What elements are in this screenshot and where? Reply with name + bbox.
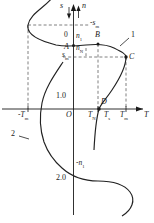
tick-neg-T-m: -Tm	[18, 111, 28, 121]
curve-label-2: 2	[11, 130, 15, 138]
axis-label-s: s	[60, 2, 63, 10]
curve-2-path	[40, 62, 133, 216]
point-C-marker	[124, 55, 127, 58]
axis-label-T: T	[144, 111, 148, 119]
point-A-marker	[72, 44, 75, 47]
curve-1-path	[28, 0, 126, 150]
point-label-A: A	[64, 43, 69, 51]
tick-T-N: TN	[88, 111, 96, 121]
point-D-marker	[97, 107, 100, 110]
tick-zero: 0	[64, 31, 68, 39]
tick-neg-n-1: -n1	[76, 159, 85, 169]
origin-label: O	[66, 111, 72, 119]
point-label-D: D	[101, 98, 107, 106]
tick-s-m: sm	[62, 51, 69, 61]
point-label-B: B	[95, 31, 100, 39]
curve-1-leader	[120, 38, 129, 46]
curve-label-1: 1	[131, 31, 135, 39]
point-B-marker	[97, 43, 100, 46]
tick-one-zero: 1.0	[56, 92, 66, 100]
tick-T-m: Tm	[120, 111, 128, 121]
tick-n-1: n1	[76, 32, 82, 42]
axis-label-n: n	[82, 2, 86, 10]
tick-neg-s-m: -sm	[90, 19, 99, 29]
figure-canvas: s n T O -sm sm 0 1.0 2.0 n1 nN -n1 -Tm T…	[0, 0, 154, 223]
tick-n-N: nN	[76, 44, 83, 54]
point-label-C: C	[129, 53, 134, 61]
curve-2-leader	[19, 136, 29, 139]
tick-T-s: Ts	[104, 111, 110, 121]
tick-two-zero: 2.0	[56, 174, 66, 182]
